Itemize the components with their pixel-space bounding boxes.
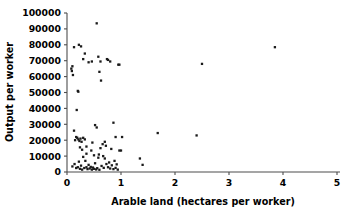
data-point [96,126,98,128]
data-point [84,138,86,140]
data-point [77,91,79,93]
data-point [78,44,80,46]
data-point [77,166,79,168]
data-point [103,167,105,169]
data-point [107,166,109,168]
data-point [99,147,101,149]
y-tick-label: 0 [55,166,62,177]
data-point [71,70,73,72]
data-point [74,139,76,141]
data-point [195,134,197,136]
data-point [87,164,89,166]
data-point [139,157,141,159]
x-axis-ticks: 012345 [64,172,340,188]
data-point [79,168,81,170]
axis-spines [67,13,340,172]
data-point [96,167,98,169]
data-point [97,56,99,58]
data-point [120,149,122,151]
data-point [93,168,95,170]
data-point [93,154,95,156]
data-point [96,22,98,24]
data-point [94,124,96,126]
y-tick-label: 70000 [29,55,62,66]
data-point [84,52,86,54]
data-point [114,167,116,169]
y-tick-label: 30000 [29,119,62,130]
y-tick-label: 50000 [29,87,62,98]
data-point [81,168,83,170]
scatter-plot-figure: 0100002000030000400005000060000700008000… [0,0,350,212]
data-point [82,58,84,60]
data-point [116,163,118,165]
data-point [73,130,75,132]
y-axis-ticks: 0100002000030000400005000060000700008000… [22,7,67,177]
data-point [85,145,87,147]
y-tick-label: 100000 [22,7,61,18]
data-point [109,60,111,62]
data-point [102,155,104,157]
data-point [83,167,85,169]
x-tick-label: 1 [118,177,124,188]
data-point [100,79,102,81]
y-tick-label: 60000 [29,71,62,82]
data-point [114,136,116,138]
data-point [79,146,81,148]
data-point [94,162,96,164]
y-tick-label: 10000 [29,151,62,162]
plot-area: 0100002000030000400005000060000700008000… [4,7,340,207]
data-point [106,58,108,60]
data-point [113,160,115,162]
data-point [105,145,107,147]
data-point [117,168,119,170]
data-point [90,166,92,168]
data-point [104,157,106,159]
x-tick-label: 5 [334,177,340,188]
data-point [201,63,203,65]
data-point [98,71,100,73]
data-point [78,140,80,142]
data-point [100,165,102,167]
data-point [80,164,82,166]
data-point [91,168,93,170]
y-axis-title: Output per worker [4,42,15,142]
data-point [110,148,112,150]
data-point [97,157,99,159]
data-point [121,136,123,138]
y-tick-label: 90000 [29,23,62,34]
data-point [98,153,100,155]
x-tick-label: 4 [280,177,287,188]
data-point [73,163,75,165]
data-point [112,168,114,170]
data-point [84,160,86,162]
data-point [87,61,89,63]
data-point [91,141,93,143]
data-point [112,122,114,124]
data-point [81,149,83,151]
x-tick-label: 0 [64,177,71,188]
data-point [98,169,100,171]
y-tick-label: 40000 [29,103,62,114]
data-point [157,132,159,134]
data-point [141,164,143,166]
data-point [90,149,92,151]
data-point [73,46,75,48]
data-point [71,165,73,167]
data-point [104,141,106,143]
data-point [76,109,78,111]
y-tick-label: 80000 [29,39,62,50]
data-points-group [70,22,276,171]
data-point [71,65,73,67]
data-point [108,161,110,163]
y-tick-label: 20000 [29,135,62,146]
data-point [118,64,120,66]
x-tick-label: 2 [172,177,178,188]
data-point [101,143,103,145]
data-point [111,164,113,166]
chart-canvas: 0100002000030000400005000060000700008000… [0,0,350,212]
data-point [85,153,87,155]
x-axis-title: Arable land (hectares per worker) [111,196,295,207]
data-point [109,167,111,169]
data-point [99,60,101,62]
data-point [72,74,74,76]
